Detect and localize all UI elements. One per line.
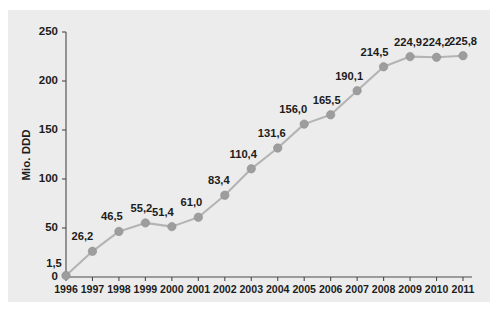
data-label-2005: 156,0: [279, 103, 307, 115]
x-tick-label-2006: 2006: [319, 283, 343, 295]
data-point-2008[interactable]: [379, 63, 387, 71]
y-axis-tick-labels: 050100150200250: [39, 25, 58, 282]
x-tick-label-2005: 2005: [292, 283, 316, 295]
data-label-2002: 83,4: [208, 174, 231, 186]
x-tick-label-2007: 2007: [345, 283, 369, 295]
data-point-2002[interactable]: [221, 191, 229, 199]
data-label-2008: 214,5: [361, 46, 389, 58]
data-label-1999: 55,2: [131, 202, 153, 214]
y-tick-label-50: 50: [45, 221, 58, 233]
data-label-1997: 26,2: [72, 230, 94, 242]
data-point-2001[interactable]: [194, 213, 202, 221]
chart-page: 050100150200250 Mio. DDD 199619971998199…: [0, 0, 498, 314]
x-tick-label-1997: 1997: [81, 283, 105, 295]
data-label-1996: 1,5: [46, 257, 62, 269]
y-axis-ticks: [62, 32, 66, 277]
data-point-2003[interactable]: [247, 165, 255, 173]
data-point-2011[interactable]: [459, 52, 467, 60]
data-point-2004[interactable]: [274, 144, 282, 152]
series-line-mio-ddd: [66, 56, 463, 276]
y-tick-label-150: 150: [39, 123, 58, 135]
y-axis: 050100150200250 Mio. DDD: [20, 25, 66, 282]
y-tick-label-250: 250: [39, 25, 58, 37]
x-tick-label-2001: 2001: [187, 283, 211, 295]
data-label-2000: 51,4: [152, 206, 175, 218]
data-point-2005[interactable]: [300, 120, 308, 128]
data-point-2006[interactable]: [326, 111, 334, 119]
x-axis-ticks: [66, 277, 463, 281]
data-label-2010: 224,2: [423, 36, 451, 48]
data-label-2004: 131,6: [258, 127, 286, 139]
y-tick-label-0: 0: [52, 270, 58, 282]
x-tick-label-2011: 2011: [452, 283, 475, 295]
data-point-1997[interactable]: [88, 247, 96, 255]
x-tick-label-1999: 1999: [134, 283, 158, 295]
x-tick-label-2004: 2004: [266, 283, 290, 295]
x-axis-tick-labels: 1996199719981999200020012002200320042005…: [54, 283, 474, 295]
x-tick-label-2010: 2010: [425, 283, 449, 295]
x-tick-label-2002: 2002: [213, 283, 237, 295]
data-point-1998[interactable]: [115, 227, 123, 235]
data-label-2003: 110,4: [230, 148, 258, 160]
data-label-1998: 46,5: [101, 210, 123, 222]
data-point-2000[interactable]: [168, 222, 176, 230]
x-tick-label-2009: 2009: [398, 283, 422, 295]
data-label-2006: 165,5: [313, 94, 341, 106]
data-point-1999[interactable]: [141, 219, 149, 227]
x-tick-label-1996: 1996: [54, 283, 78, 295]
series-group: 1,526,246,555,251,461,083,4110,4131,6156…: [46, 35, 477, 280]
series-markers: [62, 52, 467, 280]
data-label-2011: 225,8: [449, 35, 477, 47]
x-tick-label-2003: 2003: [239, 283, 263, 295]
y-tick-label-200: 200: [39, 74, 58, 86]
data-point-2007[interactable]: [353, 87, 361, 95]
data-point-2010[interactable]: [432, 53, 440, 61]
x-tick-label-2000: 2000: [160, 283, 184, 295]
x-axis: 1996199719981999200020012002200320042005…: [54, 277, 474, 295]
data-label-2007: 190,1: [335, 70, 363, 82]
data-label-2009: 224,9: [394, 36, 422, 48]
data-point-2009[interactable]: [406, 52, 414, 60]
y-axis-title: Mio. DDD: [20, 129, 32, 180]
series-point-labels: 1,526,246,555,251,461,083,4110,4131,6156…: [46, 35, 477, 269]
y-tick-label-100: 100: [39, 172, 58, 184]
x-tick-label-1998: 1998: [107, 283, 131, 295]
x-tick-label-2008: 2008: [372, 283, 396, 295]
data-point-1996[interactable]: [62, 271, 70, 279]
line-chart: 050100150200250 Mio. DDD 199619971998199…: [0, 0, 498, 314]
data-label-2001: 61,0: [180, 196, 202, 208]
